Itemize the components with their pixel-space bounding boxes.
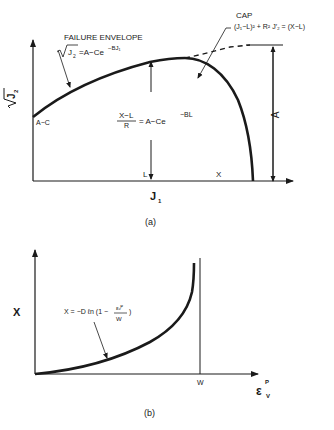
figure-a: A L X X−L R = A−Ce −BL FAILURE ENVELOPE … xyxy=(4,11,305,227)
failure-envelope-eq-exp: −BJ₁ xyxy=(108,45,121,51)
caption-a: (a) xyxy=(145,217,156,227)
l-label: L xyxy=(143,170,148,179)
failure-envelope-eq-lhs: J xyxy=(68,48,72,57)
frac-exponent: −BL xyxy=(180,111,193,118)
hardening-eq-den: W xyxy=(116,316,122,322)
j2-sub: 2 xyxy=(73,53,76,59)
y-axis-label-a: √J₂ J 2 xyxy=(4,83,19,109)
hardening-eq-num: εᵥᴾ xyxy=(116,305,124,311)
failure-envelope-label: FAILURE ENVELOPE xyxy=(64,33,143,42)
x-axis-label-b: ε xyxy=(256,384,262,398)
frac-rhs: = A−Ce xyxy=(139,117,166,126)
failure-envelope-dashed xyxy=(185,45,250,58)
cap-intersection-eq: X−L R = A−Ce −BL xyxy=(117,111,193,129)
failure-envelope-eq-rhs: =A−Ce xyxy=(79,48,104,57)
x-axis-label-a: J xyxy=(150,190,156,202)
caption-b: (b) xyxy=(144,408,155,418)
cap-curve xyxy=(185,58,253,181)
hardening-eq-leader xyxy=(94,322,107,358)
failure-envelope-eq: J 2 =A−Ce −BJ₁ xyxy=(57,45,121,59)
y-axis-sub: 2 xyxy=(13,89,19,93)
x-label: X xyxy=(216,170,222,179)
figure-b: X = −D ℓn (1 − εᵥᴾ W ) X W ε P V (b) xyxy=(13,250,270,418)
cap-leader xyxy=(198,28,231,78)
a-label: A xyxy=(270,111,281,118)
failure-envelope-curve xyxy=(33,58,185,117)
hardening-eq-text: X = −D ℓn (1 − xyxy=(64,308,108,316)
frac-denominator: R xyxy=(124,122,129,129)
hardening-curve xyxy=(35,263,194,374)
y-axis-label-b: X xyxy=(13,306,21,318)
w-label: W xyxy=(197,379,204,386)
frac-numerator: X−L xyxy=(119,111,134,120)
hardening-eq: X = −D ℓn (1 − εᵥᴾ W ) xyxy=(64,305,131,322)
x-axis-sup-b: P xyxy=(265,379,269,385)
intercept-label: A−C xyxy=(36,119,50,126)
y-axis-j: J xyxy=(6,93,17,99)
cap-label: CAP xyxy=(236,11,252,20)
x-axis-sub-a: 1 xyxy=(158,198,162,204)
hardening-eq-close: ) xyxy=(129,308,131,316)
x-axis-sub-b: V xyxy=(266,393,270,399)
cap-eq: (J₁−L)² + R² J′₂ = (X−L) xyxy=(234,23,305,31)
diagram-canvas: A L X X−L R = A−Ce −BL FAILURE ENVELOPE … xyxy=(0,0,334,430)
